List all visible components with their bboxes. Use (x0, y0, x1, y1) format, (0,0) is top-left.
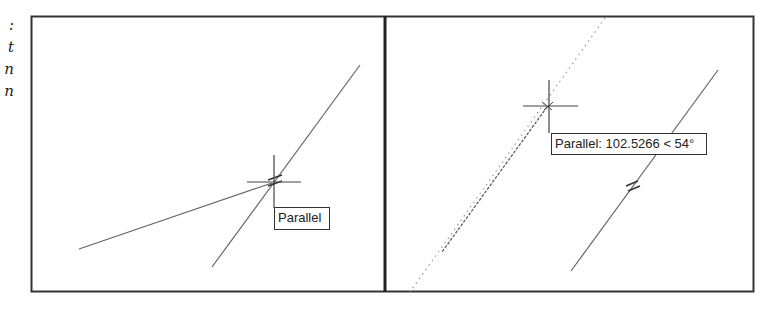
left-viewport (79, 65, 360, 267)
right-viewport (410, 18, 718, 292)
cad-drawing-canvas (0, 0, 779, 314)
rubber-band-line (442, 107, 547, 252)
drawn-line-shallow (79, 183, 272, 249)
reference-line-steep (212, 65, 360, 267)
parallel-snap-tooltip: Parallel (274, 207, 330, 230)
crosshair-cursor-icon (247, 155, 301, 208)
parallel-value-tooltip: Parallel: 102.5266 < 54° (551, 133, 707, 155)
reference-line (571, 70, 718, 271)
parallel-tracking-path (410, 18, 605, 292)
crosshair-cursor-icon (523, 80, 578, 133)
